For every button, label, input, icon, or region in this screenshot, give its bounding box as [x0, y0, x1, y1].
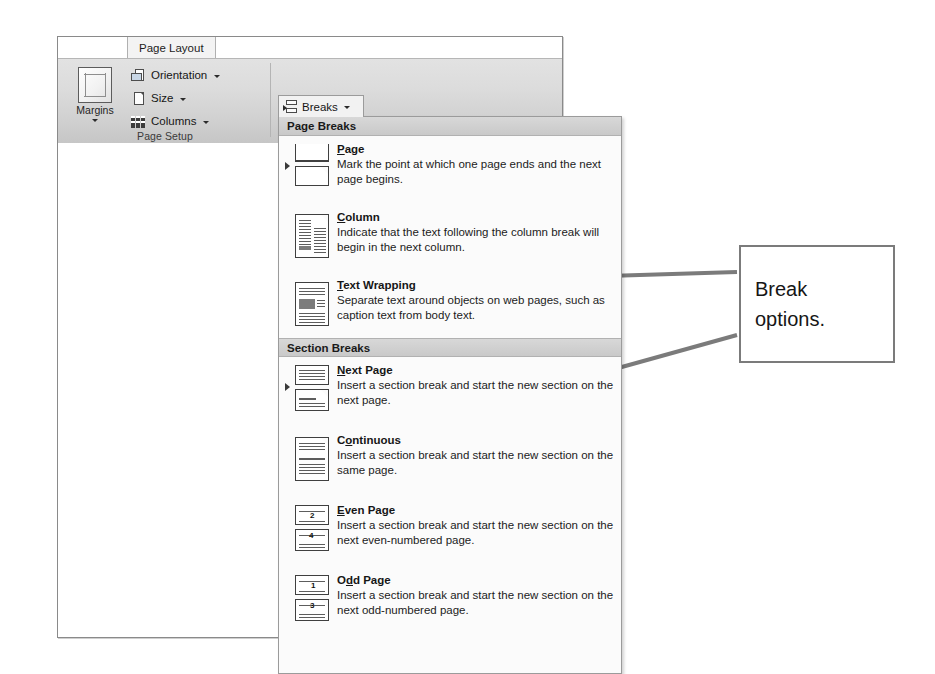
column-break-icon	[285, 210, 337, 256]
menu-item-column[interactable]: Column Indicate that the text following …	[279, 204, 621, 272]
menu-section-header-label: Page Breaks	[287, 120, 356, 132]
chevron-down-icon	[203, 121, 209, 124]
menu-item-text-wrapping-title: Text Wrapping	[337, 278, 615, 292]
menu-section-header-page-breaks: Page Breaks	[279, 117, 621, 136]
text-wrapping-break-icon	[285, 278, 337, 324]
even-page-number-bottom: 4	[309, 532, 313, 540]
menu-item-column-description: Indicate that the text following the col…	[337, 225, 615, 254]
chevron-down-icon	[180, 98, 186, 101]
breaks-button-label: Breaks	[302, 101, 338, 113]
menu-item-odd-page-title: Odd Page	[337, 573, 615, 587]
breaks-button[interactable]: Breaks	[278, 95, 364, 117]
submenu-marker-icon	[285, 383, 290, 391]
ribbon-group-page-setup: Margins Orientation Size	[59, 59, 271, 143]
margins-button[interactable]: Margins	[67, 64, 123, 128]
menu-item-even-page-description: Insert a section break and start the new…	[337, 518, 615, 547]
orientation-button-label: Orientation	[151, 69, 207, 82]
size-button[interactable]: Size	[131, 88, 186, 109]
menu-item-next-page-title: Next Page	[337, 363, 615, 377]
screenshot-stage: Page Layout Margins Orientation	[0, 0, 935, 674]
continuous-break-icon	[285, 433, 337, 479]
menu-item-next-page-text: Next Page Insert a section break and sta…	[337, 363, 615, 407]
ribbon-group-label: Page Setup	[59, 130, 271, 142]
odd-page-number-top: 1	[311, 582, 315, 590]
page-break-icon	[285, 142, 337, 188]
chevron-down-icon	[344, 106, 350, 109]
menu-item-column-title: Column	[337, 210, 615, 224]
chevron-down-icon	[92, 119, 98, 122]
orientation-button[interactable]: Orientation	[131, 65, 220, 86]
annotation-line-1: Break	[755, 274, 893, 304]
menu-item-even-page-text: Even Page Insert a section break and sta…	[337, 503, 615, 547]
menu-item-odd-page-text: Odd Page Insert a section break and star…	[337, 573, 615, 617]
document-canvas	[59, 143, 277, 636]
menu-item-next-page-description: Insert a section break and start the new…	[337, 378, 615, 407]
menu-item-even-page[interactable]: 2 4 Even Page Insert a section break and…	[279, 497, 621, 567]
menu-item-page[interactable]: Page Mark the point at which one page en…	[279, 136, 621, 204]
menu-item-continuous-text: Continuous Insert a section break and st…	[337, 433, 615, 477]
orientation-icon	[131, 68, 146, 83]
ribbon-tab-strip: Page Layout	[58, 37, 562, 59]
even-page-break-icon: 2 4	[285, 503, 337, 549]
menu-item-page-text: Page Mark the point at which one page en…	[337, 142, 615, 186]
menu-item-next-page[interactable]: Next Page Insert a section break and sta…	[279, 357, 621, 427]
menu-item-even-page-title: Even Page	[337, 503, 615, 517]
menu-item-text-wrapping[interactable]: Text Wrapping Separate text around objec…	[279, 272, 621, 338]
menu-item-continuous-title: Continuous	[337, 433, 615, 447]
menu-item-page-description: Mark the point at which one page ends an…	[337, 157, 615, 186]
chevron-down-icon	[214, 75, 220, 78]
menu-section-section-breaks: Next Page Insert a section break and sta…	[279, 357, 621, 637]
menu-item-odd-page-description: Insert a section break and start the new…	[337, 588, 615, 617]
submenu-marker-icon	[285, 162, 290, 170]
annotation-line-2: options.	[755, 304, 893, 334]
menu-section-header-label: Section Breaks	[287, 342, 370, 354]
columns-button-label: Columns	[151, 115, 196, 128]
next-page-break-icon	[285, 363, 337, 409]
application-window: Page Layout Margins Orientation	[57, 36, 563, 638]
breaks-dropdown-menu: Page Breaks Page Mark the p	[278, 116, 622, 674]
menu-item-text-wrapping-description: Separate text around objects on web page…	[337, 293, 615, 322]
menu-item-odd-page[interactable]: 1 3 Odd Page Insert a section break and …	[279, 567, 621, 637]
tab-page-layout[interactable]: Page Layout	[127, 37, 216, 58]
odd-page-number-bottom: 3	[310, 602, 314, 610]
menu-item-continuous[interactable]: Continuous Insert a section break and st…	[279, 427, 621, 497]
menu-section-page-breaks: Page Mark the point at which one page en…	[279, 136, 621, 338]
menu-item-page-title: Page	[337, 142, 615, 156]
tab-page-layout-label: Page Layout	[139, 42, 204, 54]
columns-button[interactable]: Columns	[131, 111, 209, 132]
size-button-label: Size	[151, 92, 173, 105]
annotation-callout-box: Break options.	[739, 245, 895, 363]
menu-item-column-text: Column Indicate that the text following …	[337, 210, 615, 254]
margins-button-label: Margins	[76, 105, 113, 116]
even-page-number-top: 2	[310, 512, 314, 520]
odd-page-break-icon: 1 3	[285, 573, 337, 619]
menu-section-header-section-breaks: Section Breaks	[279, 338, 621, 357]
menu-item-text-wrapping-text: Text Wrapping Separate text around objec…	[337, 278, 615, 322]
menu-item-continuous-description: Insert a section break and start the new…	[337, 448, 615, 477]
margins-icon	[78, 67, 112, 103]
size-icon	[131, 91, 146, 106]
columns-icon	[131, 114, 146, 129]
breaks-icon	[283, 100, 298, 114]
group-divider	[270, 63, 271, 137]
